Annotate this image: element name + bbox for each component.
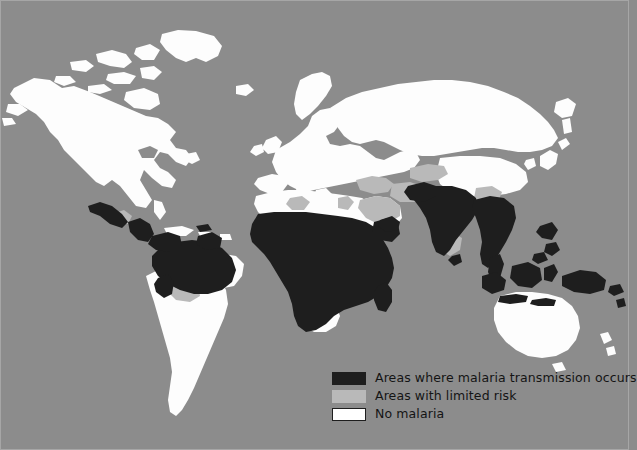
legend-label-transmission: Areas where malaria transmission occurs (375, 371, 637, 385)
legend-label-no-malaria: No malaria (375, 407, 444, 421)
legend-swatch-limited-risk (332, 390, 366, 403)
legend-item-no-malaria: No malaria (332, 406, 637, 422)
legend-swatch-transmission (332, 372, 366, 385)
legend-label-limited-risk: Areas with limited risk (375, 389, 517, 403)
map-legend: Areas where malaria transmission occurs … (332, 370, 637, 422)
legend-item-limited-risk: Areas with limited risk (332, 388, 637, 404)
legend-swatch-no-malaria (332, 408, 366, 421)
legend-item-transmission: Areas where malaria transmission occurs (332, 370, 637, 386)
